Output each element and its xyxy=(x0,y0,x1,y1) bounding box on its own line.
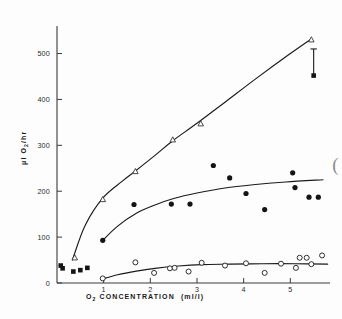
annotations-group: ( xyxy=(310,49,338,176)
axes-group xyxy=(57,26,330,283)
data-point-filled-circle xyxy=(100,238,105,243)
data-point-filled-circle xyxy=(131,202,136,207)
data-point-filled-circle xyxy=(169,201,174,206)
x-tick-label: 5 xyxy=(288,285,292,294)
y-axis-title: μl O2/hr xyxy=(20,131,29,165)
y-tick-label: 200 xyxy=(37,187,50,196)
y-tick-label: 100 xyxy=(37,233,50,242)
data-point-filled-circle xyxy=(306,195,311,200)
fit-curve-middle-series-filled-circles xyxy=(103,180,323,241)
data-point-filled-square xyxy=(78,268,83,273)
y-tick-label: 500 xyxy=(37,49,50,58)
data-point-filled-circle xyxy=(211,163,216,168)
fit-curve-upper-series-open-triangles xyxy=(72,39,311,260)
y-title-pre: μl O xyxy=(20,147,28,165)
data-point-open-circle xyxy=(262,270,267,275)
scatter-plot: 0100200300400500 12345 ( μl O2/hr O2 CON… xyxy=(0,0,342,319)
fit-curves-group xyxy=(72,39,327,279)
x-tick-label: 4 xyxy=(242,285,246,294)
data-point-open-circle xyxy=(152,270,157,275)
data-point-open-circle xyxy=(172,265,177,270)
data-point-filled-circle xyxy=(262,207,267,212)
data-point-filled-circle xyxy=(243,191,248,196)
data-point-open-circle xyxy=(279,261,284,266)
data-markers-group xyxy=(58,37,324,281)
x-axis-title-text: O2 CONCENTRATION (ml/l) xyxy=(86,293,204,302)
figure-container: 0100200300400500 12345 ( μl O2/hr O2 CON… xyxy=(0,0,342,319)
y-axis-ticks: 0100200300400500 xyxy=(37,49,62,287)
data-point-filled-square xyxy=(60,266,65,271)
data-point-filled-square xyxy=(71,269,76,274)
x-title-units: (ml/l) xyxy=(181,293,204,301)
data-point-open-circle xyxy=(244,261,249,266)
data-point-filled-square xyxy=(85,266,90,271)
data-point-open-circle xyxy=(133,260,138,265)
y-tick-label: 300 xyxy=(37,141,50,150)
data-point-filled-circle xyxy=(227,175,232,180)
data-point-open-circle xyxy=(223,263,228,268)
data-point-open-circle xyxy=(167,266,172,271)
y-tick-label: 0 xyxy=(46,279,50,288)
error-bar-marker xyxy=(311,73,316,78)
data-point-filled-circle xyxy=(290,170,295,175)
data-point-open-circle xyxy=(186,269,191,274)
edge-paren-artifact: ( xyxy=(332,154,338,176)
x-axis-title: O2 CONCENTRATION (ml/l) xyxy=(86,293,204,302)
data-point-open-circle xyxy=(297,255,302,260)
y-title-post: /hr xyxy=(20,131,27,143)
x-axis-ticks: 12345 xyxy=(102,278,293,294)
data-point-open-circle xyxy=(199,260,204,265)
data-point-filled-circle xyxy=(187,201,192,206)
data-point-open-circle xyxy=(309,262,314,267)
y-axis-title-text: μl O2/hr xyxy=(20,131,29,165)
data-point-open-triangle xyxy=(100,196,106,201)
data-point-open-circle xyxy=(293,265,298,270)
data-point-open-circle xyxy=(320,253,325,258)
y-tick-label: 400 xyxy=(37,95,50,104)
data-point-filled-circle xyxy=(316,195,321,200)
data-point-open-circle xyxy=(100,276,105,281)
data-point-open-triangle xyxy=(309,37,315,42)
data-point-open-circle xyxy=(304,255,309,260)
data-point-filled-circle xyxy=(292,185,297,190)
x-title-rest: CONCENTRATION xyxy=(100,293,175,300)
